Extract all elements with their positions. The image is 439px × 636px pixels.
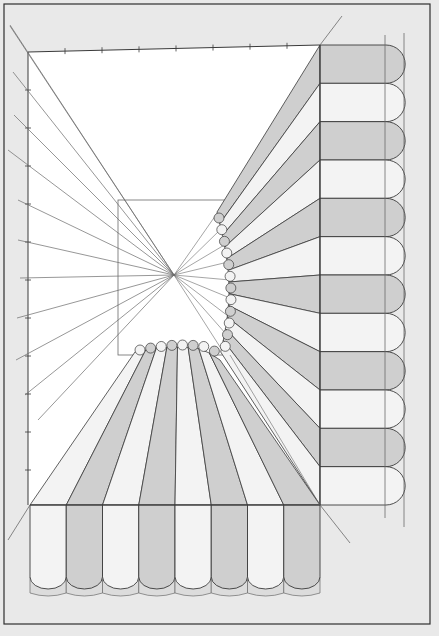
inner-scallop [222, 330, 232, 340]
bottom-band-stripe [211, 505, 247, 589]
inner-scallop [146, 343, 156, 353]
right-band-stripe [320, 160, 405, 198]
right-band-stripe [320, 313, 405, 351]
inner-scallop [214, 213, 224, 223]
right-band-stripe [320, 390, 405, 428]
inner-scallop [222, 248, 232, 258]
right-band-stripe [320, 83, 405, 121]
right-band-stripe [320, 467, 405, 505]
right-band-stripe [320, 352, 405, 390]
inner-scallop [224, 318, 234, 328]
inner-scallop [178, 340, 188, 350]
right-band-stripe [320, 198, 405, 236]
awning-perspective-drawing [0, 0, 439, 636]
inner-scallop [226, 283, 236, 293]
inner-scallop [135, 345, 145, 355]
inner-scallop [226, 295, 236, 305]
perspective-diagram [0, 0, 439, 636]
bottom-band-stripe [139, 505, 175, 589]
inner-scallop [224, 260, 234, 270]
bottom-band-stripe [30, 505, 66, 589]
bottom-band-stripe [284, 505, 320, 589]
bottom-band-stripe [103, 505, 139, 589]
inner-scallop [225, 306, 235, 316]
right-band-stripe [320, 428, 405, 466]
inner-scallop [225, 271, 235, 281]
inner-scallop [220, 341, 230, 351]
inner-scallop [156, 341, 166, 351]
right-band-stripe [320, 275, 405, 313]
inner-scallop [188, 340, 198, 350]
bottom-band-stripe [175, 505, 211, 589]
bottom-band-stripe [248, 505, 284, 589]
right-band-stripe [320, 237, 405, 275]
inner-scallop [209, 346, 219, 356]
inner-scallop [217, 225, 227, 235]
right-band-stripe [320, 45, 405, 83]
right-band-stripe [320, 122, 405, 160]
inner-scallop [219, 236, 229, 246]
bottom-band-stripe [66, 505, 102, 589]
inner-scallop [167, 340, 177, 350]
inner-scallop [199, 341, 209, 351]
